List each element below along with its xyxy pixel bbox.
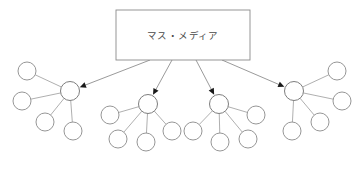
person-node (247, 106, 265, 124)
person-node (36, 113, 54, 131)
person-node (137, 133, 155, 151)
person-node (328, 62, 346, 80)
spoke-line (154, 111, 166, 124)
node-circles-layer (13, 62, 351, 151)
spoke-line (219, 113, 220, 133)
spoke-line (303, 75, 329, 87)
person-node (283, 122, 301, 140)
spoke-line (228, 107, 247, 113)
spoke-line (303, 93, 333, 99)
person-node (239, 130, 257, 148)
spoke-line (124, 111, 142, 132)
opinion-leader-node (285, 82, 304, 101)
person-node (184, 122, 202, 140)
spoke-line (51, 98, 64, 115)
person-node (211, 133, 229, 151)
person-node (163, 122, 181, 140)
spoke-line (300, 98, 314, 115)
spoke-line (119, 107, 139, 113)
spoke-line (35, 75, 61, 87)
opinion-leader-node (210, 95, 229, 114)
person-node (13, 92, 31, 110)
person-node (64, 122, 82, 140)
broadcast-line (84, 60, 150, 86)
broadcast-lines-layer (84, 60, 280, 91)
spoke-line (292, 100, 293, 122)
spoke-line (71, 100, 73, 122)
opinion-leader-node (139, 95, 158, 114)
person-node (101, 106, 119, 124)
broadcast-line (196, 60, 212, 91)
person-node (18, 62, 36, 80)
person-node (311, 113, 329, 131)
spoke-line (146, 113, 147, 133)
opinion-leader-node (61, 82, 80, 101)
spoke-line (31, 93, 61, 99)
spoke-line (199, 111, 212, 125)
person-node (333, 92, 351, 110)
person-node (109, 130, 127, 148)
broadcast-line (155, 60, 172, 91)
diagram-canvas: マス・メディア (0, 0, 362, 170)
broadcast-line (222, 60, 280, 85)
arrowheads-layer (80, 82, 285, 95)
spoke-line (225, 111, 242, 132)
source-box-label: マス・メディア (116, 10, 250, 60)
